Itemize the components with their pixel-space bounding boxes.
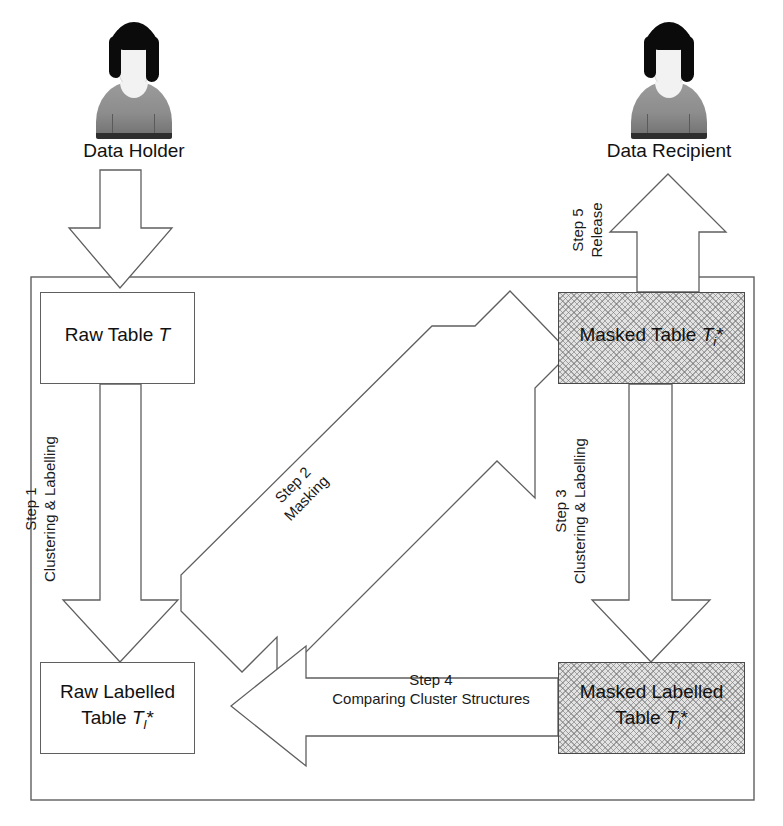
avatar-hair-right [681,36,694,82]
step-4-description: Comparing Cluster Structures [304,689,558,708]
step-1-description: Clustering & Labelling [40,429,59,589]
step-1-label: Step 1 Clustering & Labelling [21,429,61,589]
avatar-crease-right [689,114,690,134]
step-5-label: Step 5 Release [568,176,608,284]
step-4-label: Step 4 Comparing Cluster Structures [304,670,558,708]
step5-release-arrow [610,174,726,292]
data-recipient-avatar [617,22,721,140]
step-1-number: Step 1 [21,429,40,589]
node-masked-labelled-table-label: Masked LabelledTable Tl* [574,679,730,738]
step-5-description: Release [587,176,606,284]
avatar-crease-right [154,114,155,134]
node-masked-labelled-table[interactable]: Masked LabelledTable Tl* [558,662,745,754]
node-masked-table[interactable]: Masked Table Ti* [558,292,745,384]
step-3-label: Step 3 Clustering & Labelling [551,431,591,591]
avatar-shoulder-shadow [96,133,172,139]
data-holder-label: Data Holder [34,140,234,162]
step-3-description: Clustering & Labelling [570,431,589,591]
avatar-hair-right [146,36,159,82]
figure-canvas: Data Holder Data Recipient Raw Table T M… [0,0,783,826]
node-raw-table-label: Raw Table T [59,322,176,355]
step-5-number: Step 5 [568,176,587,284]
avatar-hair-left [644,36,656,78]
avatar-crease-left [647,114,648,134]
data-recipient-label: Data Recipient [569,140,769,162]
data-holder-to-raw-table-arrow [69,170,172,288]
node-masked-table-label: Masked Table Ti* [573,322,729,355]
avatar-crease-left [112,114,113,134]
step-4-number: Step 4 [304,670,558,689]
step-3-number: Step 3 [551,431,570,591]
data-holder-avatar [82,22,186,140]
node-raw-table[interactable]: Raw Table T [40,292,195,384]
avatar-shoulder-shadow [631,133,707,139]
node-raw-labelled-table-label: Raw LabelledTable Tl* [54,679,181,738]
avatar-hair-left [109,36,121,78]
node-raw-labelled-table[interactable]: Raw LabelledTable Tl* [40,662,195,754]
